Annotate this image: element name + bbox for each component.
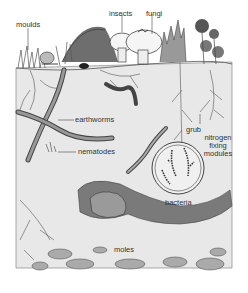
grass-hill [18,27,118,68]
label-nitrogen-line3: modules [196,150,240,158]
label-grub: grub [186,126,201,134]
label-nitrogen-fixing-modules: nitrogen fixing modules [196,134,240,158]
mushrooms [110,29,162,64]
label-moles: moles [114,246,134,254]
label-nematodes: nematodes [78,148,115,156]
label-bacteria: bacteria [165,199,192,207]
label-moulds: moulds [16,21,40,29]
label-insects: insects [109,10,132,18]
insect [79,63,89,69]
label-fungi: fungi [146,10,162,18]
snail [40,52,58,64]
label-earthworms: earthworms [75,116,114,124]
plants [160,19,224,64]
